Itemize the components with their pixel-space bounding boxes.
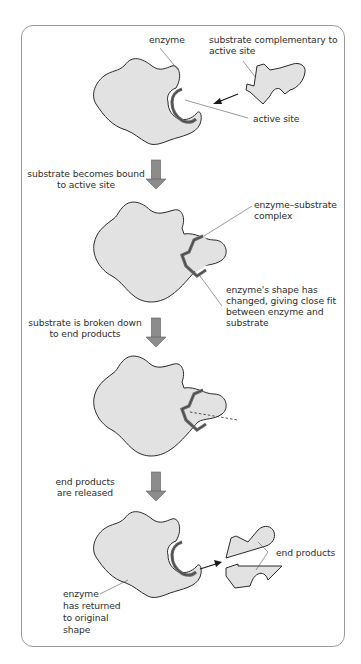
shape-leader-line [200,276,222,306]
down-arrow-1 [146,160,166,189]
stage-1-enzyme [94,59,202,145]
label-complex-line2: complex [254,210,292,221]
stage-4-enzyme [94,512,202,598]
step-label-bound-line1: substrate becomes bound [26,168,146,179]
stage-1-substrate [246,63,305,104]
label-complex-line1: enzyme–substrate [254,199,337,210]
label-returned-line4: shape [63,624,90,635]
label-shape-line2: changed, giving close fit [226,295,336,306]
label-active-site: active site [253,113,299,124]
label-shape-line3: between enzyme and [226,306,323,317]
label-enzyme: enzyme [149,34,185,45]
end-product-2 [226,564,282,588]
substrate-leader-line [243,61,256,78]
label-returned-line3: to original [63,612,108,623]
label-substrate-line2: active site [209,45,255,56]
down-arrow-3 [146,472,166,501]
step-label-broken-line2: to end products [24,328,146,339]
step-label-broken-line1: substrate is broken down [24,317,146,328]
label-returned-line2: has returned [63,600,121,611]
step-label-released-line1: end products [40,476,130,487]
label-shape-line1: enzyme's shape has [226,284,318,295]
returned-leader-line [100,580,128,594]
stage-2-complex [94,202,226,302]
down-arrow-2 [146,318,166,347]
stage-1-arrow [213,94,238,104]
label-shape-line4: substrate [226,317,269,328]
stage-3-complex [94,356,238,456]
step-label-bound-line2: to active site [26,179,146,190]
label-returned-line1: enzyme [63,588,99,599]
label-substrate-line1: substrate complementary to [209,34,338,45]
complex-leader-line [204,206,252,236]
label-end-products: end products [276,547,335,558]
step-label-released-line2: are released [40,487,130,498]
stage-4-arrow [200,560,222,569]
